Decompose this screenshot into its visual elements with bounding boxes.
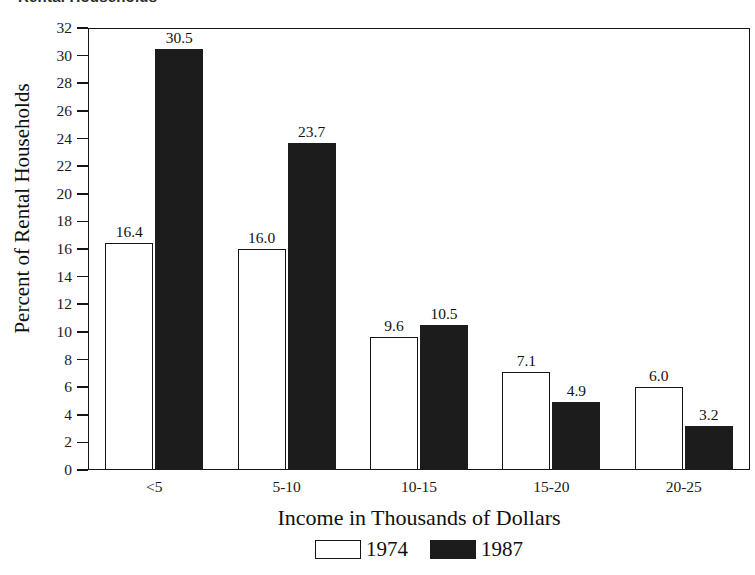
- x-axis-tick-labels: <55-1010-1515-2020-25: [88, 478, 750, 502]
- bar-group: 6.03.2: [618, 28, 750, 470]
- bar-1987-<5[interactable]: 30.5: [155, 49, 203, 470]
- y-axis-tick-mark: [77, 442, 88, 444]
- y-axis-tick-mark: [77, 414, 88, 416]
- bar-value-label: 16.0: [248, 229, 275, 247]
- y-axis-tick-label: 22: [57, 156, 73, 176]
- y-axis-tick-mark: [77, 469, 88, 471]
- y-axis-tick-label: 14: [57, 267, 73, 287]
- bar-group: 16.023.7: [220, 28, 352, 470]
- bar-value-label: 30.5: [166, 29, 193, 47]
- y-axis-title: Percent of Rental Households: [10, 0, 35, 419]
- bar-group: 9.610.5: [353, 28, 485, 470]
- y-axis-tick-label: 18: [57, 211, 73, 231]
- legend: 19741987: [88, 539, 750, 560]
- legend-label: 1974: [366, 539, 408, 560]
- bar-1974-15-20[interactable]: 7.1: [502, 372, 550, 470]
- bar-1974-20-25[interactable]: 6.0: [635, 387, 683, 470]
- bar-group: 16.430.5: [88, 28, 220, 470]
- bar-value-label: 23.7: [298, 123, 325, 141]
- bar-value-label: 10.5: [430, 305, 457, 323]
- y-axis-tick-mark: [77, 110, 88, 112]
- y-axis-tick-label: 16: [57, 239, 73, 259]
- bar-1987-15-20[interactable]: 4.9: [552, 402, 600, 470]
- y-axis-tick-mark: [77, 138, 88, 140]
- y-axis-tick-mark: [77, 82, 88, 84]
- y-axis-tick-label: 20: [57, 184, 73, 204]
- bar-chart-figure: 02468101214161820222426283032 Percent of…: [0, 0, 755, 575]
- y-axis-tick-mark: [77, 331, 88, 333]
- legend-swatch-1987: [430, 540, 476, 559]
- bar-group: 7.14.9: [485, 28, 617, 470]
- x-axis-category-5-10: 5-10: [220, 478, 352, 496]
- legend-label: 1987: [481, 539, 523, 560]
- x-axis-title: Income in Thousands of Dollars: [88, 505, 750, 531]
- x-axis-category-15-20: 15-20: [485, 478, 617, 496]
- x-axis-category-10-15: 10-15: [353, 478, 485, 496]
- y-axis-tick-mark: [77, 386, 88, 388]
- y-axis-tick-label: 2: [64, 432, 72, 452]
- bar-1987-20-25[interactable]: 3.2: [685, 426, 733, 470]
- bar-1974-5-10[interactable]: 16.0: [238, 249, 286, 470]
- y-axis-tick-label: 6: [64, 377, 72, 397]
- x-axis-category-20-25: 20-25: [618, 478, 750, 496]
- y-axis-tick-label: 8: [64, 350, 72, 370]
- y-axis-tick-label: 30: [57, 46, 73, 66]
- y-axis-tick-label: 32: [57, 18, 73, 38]
- y-axis-tick-mark: [77, 55, 88, 57]
- bar-1974-<5[interactable]: 16.4: [105, 243, 153, 470]
- bar-1974-10-15[interactable]: 9.6: [370, 337, 418, 470]
- bars-layer: 16.430.516.023.79.610.57.14.96.03.2: [88, 28, 750, 470]
- legend-item-1987[interactable]: 1987: [430, 539, 523, 560]
- x-axis-category-<5: <5: [88, 478, 220, 496]
- y-axis-tick-label: 26: [57, 101, 73, 121]
- y-axis-tick-label: 0: [64, 460, 72, 480]
- legend-item-1974[interactable]: 1974: [315, 539, 408, 560]
- y-axis-tick-mark: [77, 165, 88, 167]
- bar-value-label: 9.6: [384, 317, 403, 335]
- bar-value-label: 4.9: [567, 382, 586, 400]
- y-axis-tick-mark: [77, 221, 88, 223]
- bar-value-label: 7.1: [517, 352, 536, 370]
- y-axis-tick-mark: [77, 27, 88, 29]
- bar-1987-5-10[interactable]: 23.7: [288, 143, 336, 470]
- y-axis-tick-mark: [77, 276, 88, 278]
- y-axis-tick-mark: [77, 303, 88, 305]
- y-axis-tick-mark: [77, 193, 88, 195]
- y-axis-tick-label: 4: [64, 405, 72, 425]
- y-axis-tick-label: 12: [57, 294, 73, 314]
- y-axis-tick-label: 10: [57, 322, 73, 342]
- y-axis-tick-label: 28: [57, 73, 73, 93]
- legend-swatch-1974: [315, 540, 361, 559]
- bar-1987-10-15[interactable]: 10.5: [420, 325, 468, 470]
- bar-value-label: 6.0: [649, 367, 668, 385]
- y-axis-tick-mark: [77, 248, 88, 250]
- y-axis-tick-label: 24: [57, 129, 73, 149]
- bar-value-label: 16.4: [116, 223, 143, 241]
- bar-value-label: 3.2: [699, 406, 718, 424]
- y-axis-tick-mark: [77, 359, 88, 361]
